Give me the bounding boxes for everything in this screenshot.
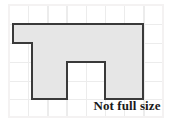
figure-caption: Not full size bbox=[86, 99, 168, 113]
figure-screenshot: Not full size bbox=[0, 0, 171, 122]
arch-shape-polygon bbox=[13, 24, 143, 99]
